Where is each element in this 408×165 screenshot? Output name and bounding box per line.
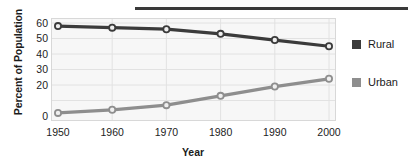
top-rule-divider (135, 7, 408, 10)
y-axis-tick: 60 (26, 18, 48, 29)
y-axis-tick: 0 (26, 111, 48, 122)
legend-label: Urban (368, 76, 398, 88)
legend-swatch-icon (352, 40, 361, 49)
x-axis-tick: 1970 (142, 126, 190, 138)
y-axis-tick: 20 (26, 80, 48, 91)
data-point-rural (272, 37, 278, 43)
data-point-urban (218, 93, 224, 99)
data-point-urban (272, 83, 278, 89)
chart-legend: RuralUrban (352, 38, 408, 114)
y-axis-tick: 50 (26, 33, 48, 44)
series-line-urban (58, 79, 329, 113)
x-axis-tick: 1950 (34, 126, 82, 138)
x-axis-tick: 2000 (305, 126, 353, 138)
data-point-urban (326, 76, 332, 82)
y-axis-tick: 40 (26, 49, 48, 60)
chart-figure: Percent of Population 60504030200 195019… (0, 0, 408, 165)
data-point-rural (109, 25, 115, 31)
legend-label: Rural (368, 38, 394, 50)
legend-item[interactable]: Urban (352, 76, 408, 88)
series-line-rural (58, 26, 329, 46)
legend-item[interactable]: Rural (352, 38, 408, 50)
x-axis-tick: 1990 (251, 126, 299, 138)
data-point-urban (109, 107, 115, 113)
x-axis-title: Year (48, 146, 338, 158)
data-point-rural (326, 43, 332, 49)
x-axis-tick: 1980 (197, 126, 245, 138)
x-axis-tick: 1960 (88, 126, 136, 138)
data-point-urban (55, 110, 61, 116)
y-axis-title: Percent of Population (12, 0, 24, 132)
plot-area (51, 18, 336, 121)
data-point-rural (55, 23, 61, 29)
data-point-rural (218, 31, 224, 37)
data-point-urban (163, 102, 169, 108)
y-axis-tick: 30 (26, 64, 48, 75)
x-axis-tick-labels: 195019601970198019902000 (0, 126, 408, 142)
legend-swatch-icon (352, 78, 361, 87)
data-point-rural (163, 26, 169, 32)
chart-canvas (52, 19, 335, 120)
